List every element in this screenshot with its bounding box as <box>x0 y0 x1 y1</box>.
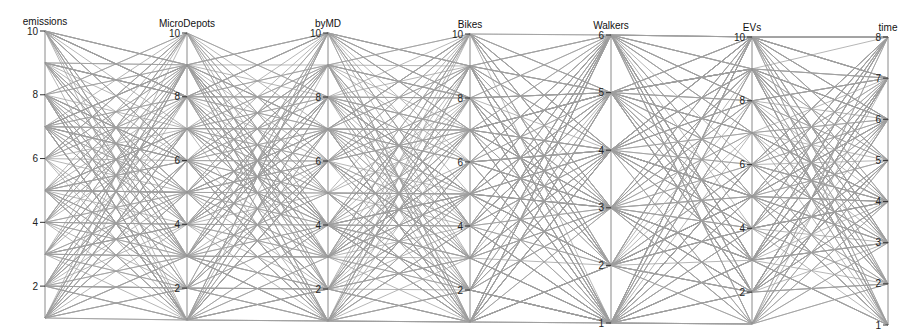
tick-label: 2 <box>598 260 604 271</box>
axis-title: byMD <box>315 18 341 29</box>
axis-title: Bikes <box>458 19 482 30</box>
tick-label: 5 <box>875 155 881 166</box>
tick-label: 6 <box>598 30 604 41</box>
axis-title: EVs <box>743 22 761 33</box>
tick-label: 2 <box>32 281 38 292</box>
tick-label: 8 <box>875 32 881 43</box>
axis-title: emissions <box>23 16 67 27</box>
tick-label: 10 <box>169 28 181 39</box>
tick-label: 1 <box>598 318 604 329</box>
tick-label: 4 <box>739 223 745 234</box>
tick-label: 2 <box>739 287 745 298</box>
tick-label: 6 <box>875 114 881 125</box>
tick-label: 10 <box>27 26 39 37</box>
data-line <box>45 37 888 325</box>
tick-label: 4 <box>457 221 463 232</box>
data-line <box>45 37 888 321</box>
tick-label: 4 <box>32 217 38 228</box>
tick-label: 8 <box>457 93 463 104</box>
tick-label: 8 <box>174 91 180 102</box>
axis-title: Walkers <box>593 20 629 31</box>
tick-label: 3 <box>875 237 881 248</box>
tick-label: 2 <box>457 285 463 296</box>
tick-label: 7 <box>875 73 881 84</box>
tick-label: 3 <box>598 202 604 213</box>
tick-label: 6 <box>315 156 321 167</box>
axis-title: MicroDepots <box>159 18 215 29</box>
tick-label: 4 <box>315 220 321 231</box>
tick-label: 6 <box>739 159 745 170</box>
data-line <box>45 37 888 325</box>
tick-label: 8 <box>739 95 745 106</box>
tick-label: 8 <box>315 92 321 103</box>
tick-label: 10 <box>310 28 322 39</box>
data-lines <box>45 31 888 325</box>
data-line <box>45 37 888 321</box>
parallel-coordinates-chart: 246810emissions246810MicroDepots246810by… <box>0 0 920 336</box>
tick-label: 2 <box>174 283 180 294</box>
tick-label: 6 <box>174 155 180 166</box>
tick-label: 2 <box>875 278 881 289</box>
data-line <box>45 119 888 289</box>
tick-label: 6 <box>32 153 38 164</box>
tick-label: 6 <box>457 157 463 168</box>
data-line <box>45 37 888 321</box>
tick-label: 1 <box>875 320 881 331</box>
tick-label: 5 <box>598 87 604 98</box>
tick-label: 4 <box>598 145 604 156</box>
tick-label: 4 <box>875 196 881 207</box>
tick-label: 8 <box>32 89 38 100</box>
axis-title: time <box>879 22 898 33</box>
tick-label: 2 <box>315 284 321 295</box>
tick-label: 10 <box>452 29 464 40</box>
tick-label: 10 <box>734 32 746 43</box>
tick-label: 4 <box>174 219 180 230</box>
axis-Walkers[interactable]: 123456Walkers <box>593 20 629 329</box>
axis-time[interactable]: 12345678time <box>875 22 897 331</box>
